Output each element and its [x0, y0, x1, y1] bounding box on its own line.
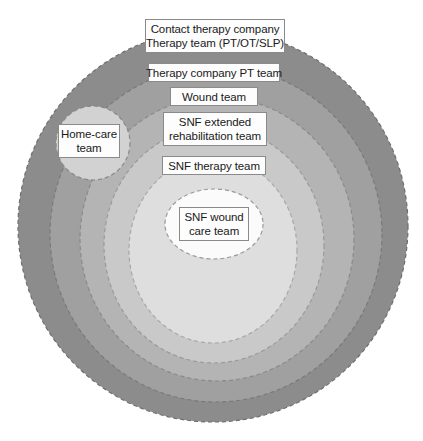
label-snf-wound-care-team: SNF wound care team [179, 207, 249, 241]
label-line-2: rehabilitation team [169, 129, 261, 143]
label-snf-therapy-team: SNF therapy team [162, 156, 266, 175]
label-therapy-company-pt-team: Therapy company PT team [148, 63, 280, 82]
label-line-1: Contact therapy company [151, 22, 280, 36]
concentric-care-team-diagram: Contact therapy company Therapy team (PT… [0, 0, 423, 441]
label-wound-team: Wound team [170, 87, 258, 106]
label-home-care-team: Home-care team [58, 124, 120, 158]
label-line-1: Therapy company PT team [146, 66, 282, 80]
label-line-1: SNF extended [179, 115, 251, 129]
label-line-2: care team [189, 224, 239, 238]
label-contact-therapy-company: Contact therapy company Therapy team (PT… [145, 19, 285, 53]
label-line-1: SNF therapy team [168, 159, 260, 173]
label-line-1: Wound team [182, 90, 246, 104]
label-line-2: Therapy team (PT/OT/SLP) [146, 36, 284, 50]
label-line-1: Home-care [61, 127, 117, 141]
label-line-2: team [76, 141, 101, 155]
label-line-1: SNF wound [184, 210, 243, 224]
label-snf-extended-rehabilitation-team: SNF extended rehabilitation team [163, 112, 267, 146]
